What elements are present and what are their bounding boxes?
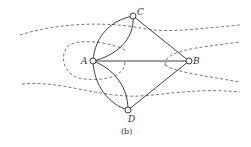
edge-a-c-outer: [93, 16, 133, 61]
edge-a-d-inner: [93, 61, 128, 110]
edge-a-c-inner: [93, 16, 133, 61]
edge-d-b: [128, 61, 189, 110]
node-label-c: C: [137, 7, 144, 17]
river-branch-lower-right: [165, 65, 240, 82]
node-label-d: D: [127, 114, 135, 124]
node-label-a: A: [80, 56, 88, 66]
node-c: [130, 13, 136, 19]
river-lower-bank: [22, 83, 240, 96]
konigsberg-graph: A B C D (b): [0, 0, 251, 147]
node-b: [186, 58, 192, 64]
node-a: [90, 58, 96, 64]
figure-caption: (b): [121, 127, 132, 136]
river-branch-upper-right: [165, 42, 240, 65]
edge-c-b: [133, 16, 189, 61]
node-label-b: B: [192, 56, 200, 66]
node-d: [125, 107, 131, 113]
edge-a-d-outer: [93, 61, 128, 110]
